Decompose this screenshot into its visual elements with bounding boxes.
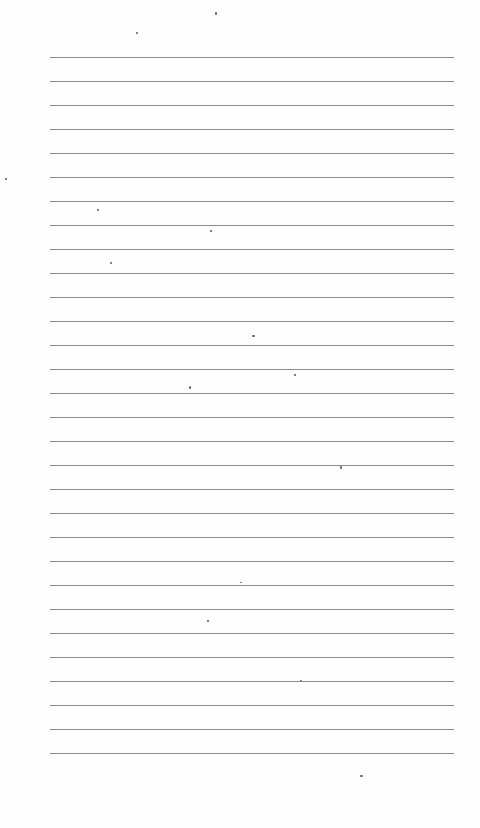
scan-speck [294, 374, 296, 376]
ruled-line [50, 633, 454, 634]
scan-speck [252, 335, 255, 337]
ruled-line [50, 513, 454, 514]
ruled-line [50, 561, 454, 562]
lined-paper-page [0, 0, 480, 828]
ruled-line [50, 681, 454, 682]
ruled-line [50, 105, 454, 106]
ruled-line [50, 345, 454, 346]
ruled-line [50, 81, 454, 82]
ruled-line [50, 417, 454, 418]
scan-speck [136, 32, 138, 34]
ruled-line [50, 441, 454, 442]
ruled-line [50, 753, 454, 754]
ruled-line [50, 465, 454, 466]
ruled-line [50, 57, 454, 58]
ruled-line [50, 249, 454, 250]
scan-speck [300, 680, 302, 681]
ruled-line [50, 729, 454, 730]
ruled-line [50, 537, 454, 538]
ruled-line [50, 153, 454, 154]
scan-speck [210, 230, 212, 232]
scan-speck [97, 209, 99, 211]
ruled-line [50, 489, 454, 490]
ruled-line [50, 609, 454, 610]
ruled-line [50, 705, 454, 706]
scan-speck [110, 262, 112, 264]
ruled-line [50, 585, 454, 586]
ruled-line [50, 273, 454, 274]
ruled-line [50, 201, 454, 202]
ruled-line [50, 393, 454, 394]
ruled-line [50, 225, 454, 226]
scan-speck [215, 12, 217, 15]
scan-speck [207, 620, 209, 622]
scan-speck [240, 582, 242, 583]
ruled-line [50, 297, 454, 298]
ruled-line [50, 177, 454, 178]
scan-speck [5, 178, 7, 180]
ruled-line [50, 321, 454, 322]
ruled-line [50, 129, 454, 130]
scan-speck [340, 466, 342, 469]
scan-speck [360, 775, 363, 777]
ruled-line [50, 369, 454, 370]
scan-speck [189, 386, 191, 389]
ruled-line [50, 657, 454, 658]
